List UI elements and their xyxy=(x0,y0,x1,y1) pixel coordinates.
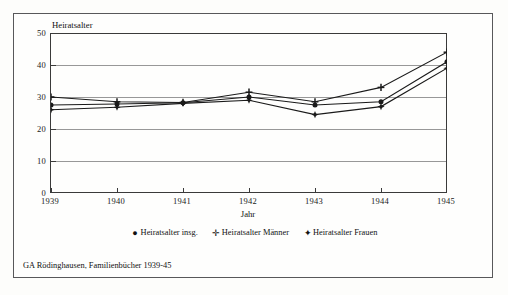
plus-marker: ✛ xyxy=(212,228,221,239)
legend-item[interactable]: ●Heiratsalter insg. xyxy=(131,227,198,238)
chart-legend: ●Heiratsalter insg.✛Heiratsalter Männer✦… xyxy=(0,227,508,238)
y-tick-label: 20 xyxy=(20,125,46,134)
chart-svg xyxy=(51,33,447,193)
x-axis-title-text: Jahr xyxy=(241,209,255,219)
y-tick-label: 50 xyxy=(20,29,46,38)
gridlines xyxy=(51,33,447,193)
x-tick-label: 1942 xyxy=(225,196,271,206)
x-tick-label: 1940 xyxy=(93,196,139,206)
x-axis-title: Jahr xyxy=(0,209,508,219)
y-tick-label: 30 xyxy=(20,93,46,102)
source-caption: GA Rödinghausen, Familienbücher 1939-45 xyxy=(23,260,171,271)
y-axis-tick-marks xyxy=(51,33,56,193)
legend-item-label: Heiratsalter insg. xyxy=(141,228,198,237)
x-tick-label: 1943 xyxy=(291,196,337,206)
x-tick-label: 1945 xyxy=(423,196,469,206)
y-axis-tick-labels: 01020304050 xyxy=(14,0,46,295)
legend-item[interactable]: ✦Heiratsalter Frauen xyxy=(303,227,377,238)
x-tick-label: 1941 xyxy=(159,196,205,206)
plot-area xyxy=(50,33,446,193)
series-lines xyxy=(51,52,447,114)
legend-item-label: Heiratsalter Männer xyxy=(222,228,289,237)
y-axis-title: Heiratsalter xyxy=(52,20,93,30)
figure-container: Heiratsalter 01020304050 193919401941194… xyxy=(0,0,508,295)
x-tick-label: 1939 xyxy=(27,196,73,206)
legend-item-label: Heiratsalter Frauen xyxy=(313,228,377,237)
x-tick-label: 1944 xyxy=(357,196,403,206)
x-axis-tick-labels: 1939194019411942194319441945 xyxy=(50,196,446,210)
x-axis-tick-marks xyxy=(51,188,447,193)
y-tick-label: 10 xyxy=(20,157,46,166)
y-tick-label: 40 xyxy=(20,61,46,70)
star-marker: ✦ xyxy=(303,228,312,239)
legend-item[interactable]: ✛Heiratsalter Männer xyxy=(212,227,289,238)
filled-circle-marker: ● xyxy=(131,228,140,239)
